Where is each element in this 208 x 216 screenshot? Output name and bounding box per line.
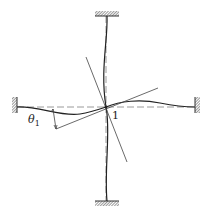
frame-diagram (0, 0, 208, 216)
left-fixed-support (12, 97, 17, 113)
theta1-label: θ1 (28, 114, 40, 128)
joint-node (105, 106, 108, 109)
node-1-label: 1 (112, 110, 119, 121)
top-fixed-support (95, 11, 119, 16)
bottom-fixed-support (95, 201, 119, 206)
right-fixed-support (195, 97, 200, 113)
top-member-deflected (104, 16, 107, 107)
